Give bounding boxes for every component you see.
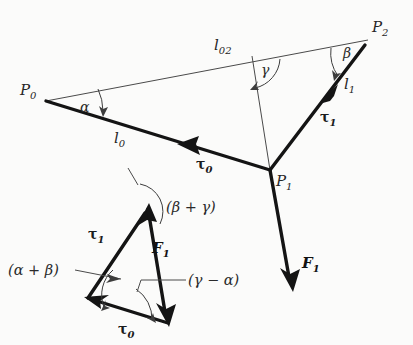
segment-l1-line: [270, 45, 365, 170]
tau0-arrowhead-main: [177, 136, 200, 155]
force-triangle-f1-side: [148, 209, 165, 312]
composite-angle-label-gamma-minus-alpha: (γ − α): [188, 272, 239, 288]
segment-label-l02: l02: [214, 36, 232, 56]
angle-label-beta: β: [342, 45, 351, 61]
angle-arc-beta: [331, 48, 338, 76]
angle-arc-gamma-arrowhead: [250, 81, 259, 90]
segment-label-l0: l0: [114, 129, 126, 149]
torque-label-tau1-triangle: τ1: [88, 226, 104, 245]
leader-beta-plus-gamma: [128, 168, 138, 185]
torque-label-tau0-main: τ0: [196, 156, 212, 175]
segment-label-l1: l1: [344, 75, 355, 95]
leader-alpha-plus-beta-arrowhead: [106, 274, 121, 283]
point-label-p2: P2: [371, 18, 388, 38]
force-triangle-tau1-arrowhead: [137, 203, 157, 226]
force-label-f1-triangle: F1: [151, 239, 170, 259]
segment-l02-line: [46, 40, 368, 101]
force-label-f1-main: F1: [301, 254, 320, 274]
torque-label-tau0-triangle: τ0: [118, 321, 134, 340]
angle-arc-alpha-arrowhead: [99, 106, 108, 117]
composite-angle-label-alpha-plus-beta: (α + β): [8, 262, 59, 278]
point-label-p1: P1: [275, 172, 292, 192]
diagram-svg: P0 P1 P2 l02 l0 l1 α β γ τ0 τ1 F1 τ1 τ0 …: [0, 0, 413, 345]
torque-label-tau1-main: τ1: [320, 109, 336, 128]
force-f1-main-arrowhead: [280, 268, 300, 292]
leader-gamma-minus-alpha-tick: [137, 280, 141, 292]
figure-canvas: P0 P1 P2 l02 l0 l1 α β γ τ0 τ1 F1 τ1 τ0 …: [0, 0, 413, 345]
angle-label-alpha: α: [80, 99, 90, 115]
angle-label-gamma: γ: [261, 62, 270, 78]
point-label-p0: P0: [19, 81, 37, 101]
composite-angle-label-beta-plus-gamma: (β + γ): [166, 199, 216, 215]
